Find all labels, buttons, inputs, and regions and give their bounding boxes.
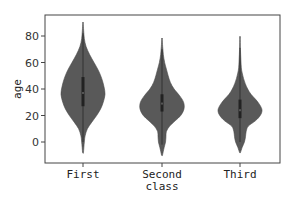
x-tick-label-third: Third bbox=[223, 168, 256, 181]
median-marker bbox=[161, 103, 163, 105]
x-axis: FirstSecondThird bbox=[66, 163, 256, 181]
y-tick-label: 80 bbox=[25, 30, 39, 43]
y-axis: 020406080 bbox=[25, 30, 45, 149]
y-tick-label: 40 bbox=[25, 83, 39, 96]
violin-chart: 020406080 FirstSecondThird age class bbox=[0, 0, 293, 201]
median-marker bbox=[239, 109, 241, 111]
iqr-box bbox=[82, 77, 85, 106]
y-axis-title: age bbox=[11, 79, 24, 99]
y-tick-label: 0 bbox=[32, 136, 39, 149]
y-tick-label: 20 bbox=[25, 110, 39, 123]
y-tick-label: 60 bbox=[25, 57, 39, 70]
median-marker bbox=[82, 92, 84, 94]
x-axis-title: class bbox=[145, 180, 178, 193]
x-tick-label-first: First bbox=[66, 168, 99, 181]
iqr-box bbox=[239, 100, 242, 119]
